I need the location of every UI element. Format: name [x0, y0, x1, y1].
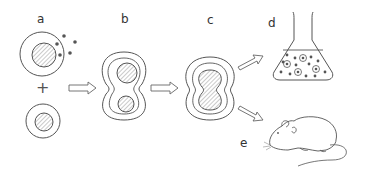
cell-fusing — [102, 52, 146, 120]
label-a: a — [37, 13, 44, 25]
arrow-up-right-icon — [238, 55, 263, 70]
mouse-illustration — [263, 117, 346, 166]
arrow-down-right-icon — [238, 106, 263, 121]
diagram-canvas: a b c d e + — [0, 0, 367, 174]
arrow-right-icon — [69, 82, 96, 94]
label-c: c — [207, 14, 214, 26]
cell-myeloma — [26, 104, 60, 138]
label-e: e — [240, 137, 247, 149]
culture-flask — [273, 12, 333, 80]
label-d: d — [268, 17, 276, 29]
cell-antibody-secreting — [20, 32, 77, 76]
plus-sign: + — [36, 80, 49, 96]
cell-hybrid — [186, 57, 234, 120]
arrow-right-icon — [151, 82, 178, 94]
label-b: b — [121, 13, 129, 25]
diagram-svg — [0, 0, 367, 174]
